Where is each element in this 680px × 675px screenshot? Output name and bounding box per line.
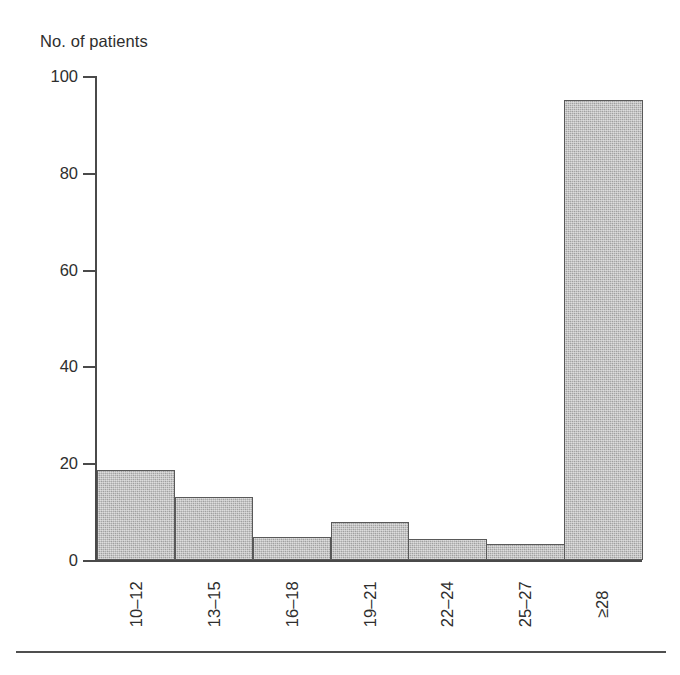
histogram-figure: No. of patients 020406080100 10–1213–151… (0, 0, 680, 675)
x-category-label: 22–24 (408, 566, 486, 650)
y-axis-title: No. of patients (40, 32, 148, 51)
x-axis-category-labels: 10–1213–1516–1819–2122–2425–27≥28 (97, 566, 642, 652)
y-tick-mark (83, 560, 95, 562)
bar (408, 539, 486, 560)
x-category-label: 10–12 (97, 566, 175, 650)
x-category-label-text: 16–18 (283, 581, 300, 627)
bar (175, 497, 253, 560)
plot-area: 020406080100 (95, 76, 640, 560)
bar (486, 544, 564, 560)
y-tick-mark (83, 366, 95, 368)
y-tick-label: 80 (60, 163, 78, 182)
x-category-label: 13–15 (175, 566, 253, 650)
bar (331, 522, 409, 560)
y-tick-label: 60 (60, 260, 78, 279)
x-category-label: 19–21 (331, 566, 409, 650)
y-tick-mark (83, 173, 95, 175)
bar (253, 537, 331, 560)
y-tick-mark (83, 463, 95, 465)
bar-series (97, 76, 642, 560)
x-category-label-text: 13–15 (206, 581, 223, 627)
bottom-rule-divider (16, 651, 666, 653)
x-category-label-text: ≥28 (595, 591, 612, 618)
bar (97, 470, 175, 560)
y-tick-label: 0 (69, 551, 78, 570)
x-category-label-text: 25–27 (517, 581, 534, 627)
y-tick-mark (83, 270, 95, 272)
bar (564, 100, 642, 560)
x-category-label-text: 19–21 (361, 581, 378, 627)
x-category-label: 16–18 (253, 566, 331, 650)
y-tick-label: 40 (60, 357, 78, 376)
x-category-label: ≥28 (564, 566, 642, 650)
x-category-label-text: 10–12 (128, 581, 145, 627)
x-category-label-text: 22–24 (439, 581, 456, 627)
y-tick-mark (83, 76, 95, 78)
x-category-label: 25–27 (486, 566, 564, 650)
y-tick-label: 100 (50, 67, 78, 86)
x-axis-line (95, 560, 642, 562)
y-tick-label: 20 (60, 454, 78, 473)
